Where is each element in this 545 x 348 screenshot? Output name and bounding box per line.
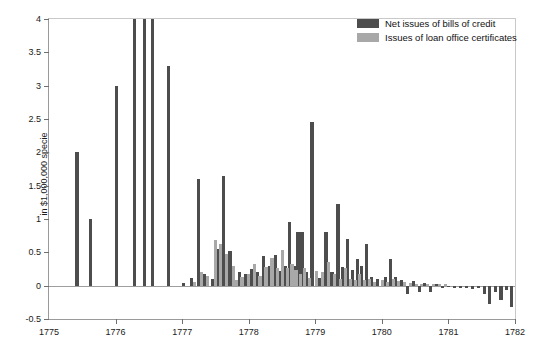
chart-bar: [499, 286, 502, 300]
chart-bar: [303, 268, 306, 286]
chart-bar: [483, 286, 486, 294]
chart-bar: [415, 284, 418, 286]
y-axis-tick: [44, 119, 49, 120]
chart-bar: [373, 282, 376, 285]
y-axis-tick: [44, 152, 49, 153]
chart-bar: [418, 286, 421, 293]
chart-bar: [363, 280, 366, 285]
chart-bar: [406, 286, 409, 294]
chart-bar: [240, 277, 243, 286]
chart-bar: [286, 268, 289, 285]
chart-bar: [294, 270, 297, 286]
chart-bar: [453, 286, 456, 288]
chart-bar: [438, 284, 441, 285]
chart-bar: [75, 152, 78, 285]
chart-bar: [182, 283, 185, 286]
chart-bar: [494, 286, 497, 293]
chart-bar: [392, 279, 395, 286]
legend-swatch-icon: [357, 19, 379, 28]
y-axis-tick: [44, 52, 49, 53]
x-axis-tick-label: 1780: [372, 327, 392, 337]
y-axis-tick: [44, 319, 49, 320]
chart-bar: [488, 286, 491, 305]
chart-canvas: in $1,000,000 specie -0.500.511.522.533.…: [0, 0, 545, 348]
chart-bar: [471, 286, 474, 289]
chart-bar: [465, 286, 468, 289]
chart-bar: [358, 274, 361, 286]
chart-bar: [206, 276, 209, 285]
chart-bar: [420, 284, 423, 286]
chart-bar: [403, 282, 406, 285]
x-axis-tick: [315, 319, 316, 324]
chart-bar: [429, 286, 432, 293]
chart-bar: [321, 272, 324, 286]
y-axis-tick-label: 1.5: [28, 181, 41, 191]
y-axis-tick-label: 2.5: [28, 114, 41, 124]
x-axis-tick-label: 1778: [239, 327, 259, 337]
y-axis-tick-label: 3.5: [28, 47, 41, 57]
y-axis-tick-label: 3: [36, 81, 41, 91]
legend-label: Issues of loan office certificates: [385, 32, 517, 43]
chart-bar: [310, 122, 313, 285]
plot-inner: -0.500.511.522.533.541775177617771778177…: [49, 19, 515, 319]
chart-bar: [344, 268, 347, 285]
chart-bar: [368, 279, 371, 286]
x-axis-tick-label: 1775: [39, 327, 59, 337]
x-axis-tick-label: 1776: [106, 327, 126, 337]
chart-legend: Net issues of bills of credit Issues of …: [357, 18, 517, 43]
chart-bar: [235, 280, 238, 285]
chart-bar: [441, 286, 444, 289]
chart-bar: [459, 286, 462, 288]
x-axis-tick: [515, 319, 516, 324]
legend-item-loan-office-certificates[interactable]: Issues of loan office certificates: [357, 32, 517, 43]
chart-bar: [432, 284, 435, 285]
x-axis-tick: [382, 319, 383, 324]
chart-bar: [510, 286, 513, 307]
x-axis-tick: [448, 319, 449, 324]
chart-bar: [89, 219, 92, 286]
legend-item-bills-of-credit[interactable]: Net issues of bills of credit: [357, 18, 517, 29]
y-axis-tick: [44, 286, 49, 287]
chart-bar: [276, 268, 279, 285]
chart-bar: [264, 267, 267, 286]
y-axis-tick: [44, 219, 49, 220]
x-axis-tick-label: 1782: [505, 327, 525, 337]
y-axis-tick: [44, 86, 49, 87]
chart-bar: [397, 281, 400, 286]
x-axis-tick: [249, 319, 250, 324]
chart-bar: [219, 244, 222, 285]
chart-bar: [333, 274, 336, 286]
chart-bar: [281, 250, 284, 286]
legend-label: Net issues of bills of credit: [385, 18, 495, 29]
zero-baseline: [49, 286, 515, 287]
chart-bar: [290, 264, 293, 285]
chart-bar: [151, 19, 154, 286]
x-axis-tick-label: 1777: [172, 327, 192, 337]
chart-bar: [200, 272, 203, 285]
chart-bar: [225, 254, 228, 286]
chart-bar: [270, 258, 273, 286]
x-axis-tick: [116, 319, 117, 324]
chart-bar: [193, 282, 196, 285]
chart-bar: [477, 286, 480, 289]
y-axis-tick: [44, 19, 49, 20]
x-axis-tick-label: 1781: [438, 327, 458, 337]
chart-bar: [258, 276, 261, 285]
y-axis-tick: [44, 252, 49, 253]
chart-bar: [336, 204, 339, 285]
y-axis-tick-label: -0.5: [25, 314, 41, 324]
chart-bar: [143, 19, 146, 286]
chart-bar: [167, 66, 170, 286]
x-axis-tick: [182, 319, 183, 324]
chart-bar: [354, 280, 357, 285]
x-axis-tick-label: 1779: [305, 327, 325, 337]
chart-bar: [386, 282, 389, 286]
chart-bar: [133, 19, 136, 286]
chart-bar: [426, 284, 429, 285]
chart-bar: [299, 274, 302, 285]
y-axis-tick: [44, 186, 49, 187]
chart-bar: [253, 264, 256, 286]
chart-bar: [327, 262, 330, 286]
chart-bar: [409, 283, 412, 286]
chart-bar: [505, 286, 508, 290]
